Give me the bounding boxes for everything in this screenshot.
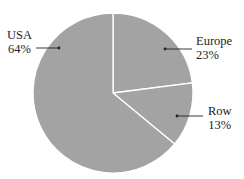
slice-percent-usa: 64%: [7, 42, 32, 56]
slice-label-europe: Europe 23%: [196, 34, 232, 62]
slice-label-usa: USA 64%: [7, 28, 32, 56]
pie-slices: [33, 13, 193, 173]
leader-dot-row: [176, 115, 179, 118]
leader-dot-usa: [58, 47, 61, 50]
slice-name-usa: USA: [7, 28, 32, 42]
slice-name-row: Row: [208, 104, 232, 118]
slice-percent-row: 13%: [208, 118, 232, 132]
slice-percent-europe: 23%: [196, 48, 232, 62]
slice-name-europe: Europe: [196, 34, 232, 48]
pie-slice-europe: [113, 13, 192, 93]
pie-chart: [0, 0, 244, 179]
leader-dot-europe: [164, 48, 167, 51]
slice-label-row: Row 13%: [208, 104, 232, 132]
